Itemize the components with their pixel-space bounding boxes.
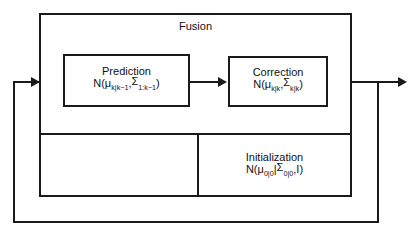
prediction-title: Prediction <box>63 65 190 77</box>
prediction-label: Prediction N(μk|k−1,Σ1:k−1) <box>63 65 190 90</box>
correction-title: Correction <box>228 66 328 78</box>
correction-sigma-subscript: k|k <box>290 84 299 93</box>
correction-label: Correction N(μk|k,Σk|k) <box>228 66 328 91</box>
initialization-formula-suffix: ,I) <box>293 163 303 175</box>
fusion-label: Fusion <box>39 20 352 32</box>
prediction-formula: N(μk|k−1,Σ1:k−1) <box>63 77 190 89</box>
feedback-loop-right-segment <box>377 82 379 223</box>
feedback-loop-bottom-segment <box>13 221 379 223</box>
output-arrow-line <box>352 81 404 83</box>
fusion-row-divider <box>39 133 352 135</box>
correction-formula-prefix: N( <box>253 78 265 90</box>
prediction-to-correction-arrowhead-icon <box>218 77 227 87</box>
fusion-title: Fusion <box>39 20 352 32</box>
prediction-sigma-subscript: 1:k−1 <box>138 83 156 92</box>
correction-formula-suffix: ) <box>299 78 303 90</box>
prediction-formula-suffix: ) <box>156 77 160 89</box>
prediction-formula-prefix: N( <box>93 77 105 89</box>
correction-mu-subscript: k|k <box>271 84 280 93</box>
initialization-label: Initialization N(μ0|0|Σ0|0,I) <box>197 151 352 176</box>
initialization-mu-subscript: 0|0 <box>264 169 274 178</box>
output-arrowhead-icon <box>398 77 407 87</box>
feedback-loop-left-segment <box>13 81 15 223</box>
initialization-mu: μ <box>258 163 264 175</box>
initialization-title: Initialization <box>197 151 352 163</box>
initialization-sigma-subscript: 0|0 <box>283 169 293 178</box>
diagram-canvas: Fusion Prediction N(μk|k−1,Σ1:k−1) Corre… <box>0 0 413 240</box>
initialization-formula-prefix: N( <box>246 163 258 175</box>
correction-formula: N(μk|k,Σk|k) <box>228 78 328 90</box>
prediction-mu-subscript: k|k−1 <box>111 83 128 92</box>
initialization-formula: N(μ0|0|Σ0|0,I) <box>197 163 352 175</box>
